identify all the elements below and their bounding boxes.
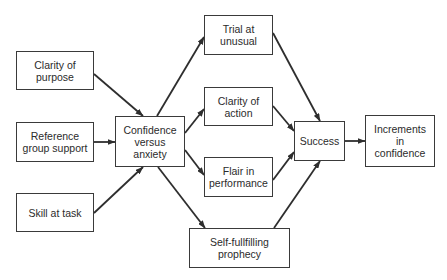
arrow-confidence_anxiety-to-flair_performance — [185, 150, 204, 175]
arrow-flair_performance-to-success — [273, 152, 294, 180]
arrow-clarity_purpose-to-confidence_anxiety — [94, 74, 143, 116]
node-success: Success — [294, 121, 345, 161]
arrow-trial_unusual-to-success — [273, 33, 320, 121]
arrow-confidence_anxiety-to-self_fulfilling — [158, 167, 205, 228]
node-trial-at-unusual: Trial at unusual — [204, 15, 273, 55]
arrow-confidence_anxiety-to-clarity_action — [185, 109, 204, 133]
node-clarity-of-purpose: Clarity of purpose — [16, 51, 94, 90]
node-confidence-versus-anxiety: Confidence versus anxiety — [115, 116, 185, 167]
arrow-self_fulfilling-to-success — [274, 161, 320, 228]
arrow-skill_task-to-confidence_anxiety — [94, 167, 143, 213]
node-skill-at-task: Skill at task — [16, 193, 94, 232]
node-increments-in-confidence: Increments in confidence — [365, 115, 435, 167]
node-flair-in-performance: Flair in performance — [204, 157, 273, 197]
node-clarity-of-action: Clarity of action — [204, 87, 273, 126]
node-self-fulfilling-prophecy: Self-fullfilling prophecy — [189, 228, 290, 268]
arrow-confidence_anxiety-to-trial_unusual — [157, 37, 204, 116]
node-reference-group-support: Reference group support — [16, 122, 94, 162]
arrow-clarity_action-to-success — [273, 106, 294, 131]
